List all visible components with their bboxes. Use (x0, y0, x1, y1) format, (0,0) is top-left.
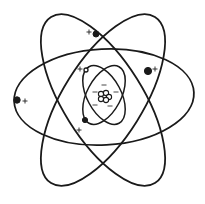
plus-sign (78, 67, 83, 72)
plus-sign (87, 30, 92, 35)
atom-illustration (0, 0, 205, 204)
electron (84, 68, 88, 72)
nucleon (98, 96, 103, 101)
plus-sign (153, 67, 158, 72)
outer-orbit (12, 44, 197, 149)
nucleon (98, 91, 103, 96)
plus-sign (77, 128, 82, 133)
electron (144, 67, 151, 74)
electron (82, 117, 87, 122)
nucleon (103, 97, 108, 102)
nucleus (98, 90, 111, 102)
plus-sign (23, 99, 28, 104)
electron (93, 31, 99, 37)
atom-diagram (0, 0, 205, 204)
electron (14, 97, 20, 103)
